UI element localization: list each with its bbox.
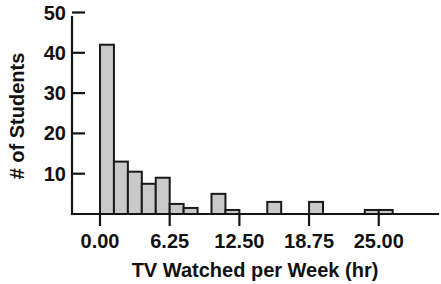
y-axis-tick-labels: 1020304050: [44, 2, 66, 185]
y-axis-tick-label: 30: [44, 82, 66, 104]
chart-canvas: 1020304050 0.006.2512.5018.7525.00 TV Wa…: [0, 0, 441, 284]
x-axis-tick-label: 25.00: [354, 230, 404, 252]
y-axis-ticks: [72, 13, 85, 174]
x-axis-tick-label: 18.75: [284, 230, 334, 252]
x-axis-tick-labels: 0.006.2512.5018.7525.00: [81, 230, 404, 252]
x-axis-tick-label: 12.50: [214, 230, 264, 252]
x-axis-tick-label: 6.25: [150, 230, 189, 252]
histogram-bar: [100, 45, 114, 214]
y-axis-tick-label: 40: [44, 42, 66, 64]
x-axis-tick-label: 0.00: [81, 230, 120, 252]
histogram-chart: 1020304050 0.006.2512.5018.7525.00 TV Wa…: [0, 0, 441, 284]
y-axis-tick-label: 50: [44, 2, 66, 24]
histogram-bar: [212, 194, 226, 214]
histogram-bar: [309, 202, 323, 214]
x-axis-title: TV Watched per Week (hr): [132, 259, 379, 281]
x-axis-ticks: [100, 214, 379, 226]
y-axis-tick-label: 20: [44, 122, 66, 144]
y-axis-title: # of Students: [6, 53, 28, 180]
histogram-bar: [142, 184, 156, 214]
histogram-bar: [156, 178, 170, 214]
histogram-bar: [128, 172, 142, 214]
histogram-bar: [170, 204, 184, 214]
y-axis-tick-label: 10: [44, 163, 66, 185]
histogram-bar: [114, 162, 128, 214]
histogram-bar: [267, 202, 281, 214]
bars-group: [100, 45, 393, 214]
